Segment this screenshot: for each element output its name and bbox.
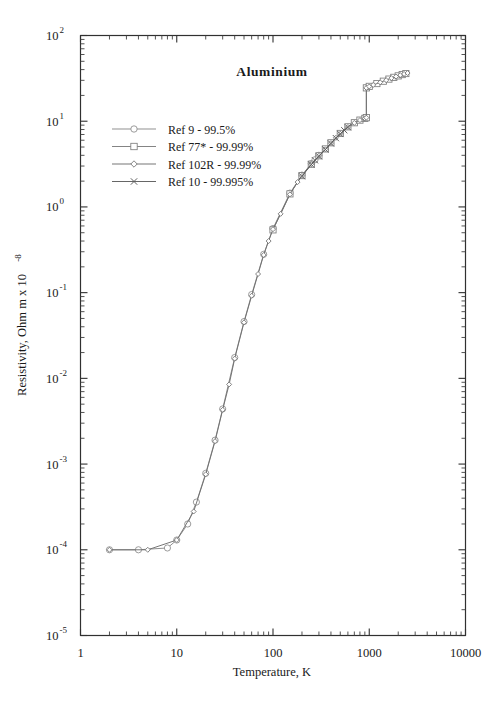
y-tick-label: 10-3	[46, 454, 67, 472]
data-series-layer	[106, 70, 410, 552]
y-tick-label: 102	[46, 25, 64, 43]
svg-text:10: 10	[46, 29, 59, 43]
svg-text:-1: -1	[60, 282, 68, 292]
x-tick-label: 100	[264, 646, 283, 660]
y-tick-label: 100	[46, 196, 65, 214]
x-axis-title: Temperature, K	[233, 665, 311, 679]
svg-text:-4: -4	[60, 539, 68, 549]
x-tick-label: 10	[171, 646, 184, 660]
y-tick-label: 10-1	[46, 282, 67, 300]
svg-text:10: 10	[46, 458, 59, 472]
legend-item[interactable]: Ref 10 - 99.995%	[112, 175, 253, 189]
svg-text:Resistivity, Ohm m x 10: Resistivity, Ohm m x 10	[15, 274, 29, 396]
x-tick-label: 10000	[450, 646, 481, 660]
y-axis-tick-labels: 10210110010-110-210-310-410-5	[46, 25, 67, 643]
y-axis-ticks	[81, 36, 466, 636]
chart-title: Aluminium	[236, 64, 308, 79]
y-tick-label: 101	[46, 111, 64, 129]
x-tick-label: 1000	[357, 646, 382, 660]
data-series	[107, 71, 410, 553]
y-axis-title: Resistivity, Ohm m x 10-8	[13, 254, 29, 396]
x-axis-tick-labels: 110100100010000	[77, 646, 481, 660]
legend-item[interactable]: Ref 9 - 99.5%	[112, 123, 235, 137]
chart-legend: Ref 9 - 99.5%Ref 77* - 99.99%Ref 102R - …	[112, 123, 261, 190]
svg-text:-5: -5	[60, 625, 68, 635]
svg-text:10: 10	[46, 543, 59, 557]
legend-item[interactable]: Ref 77* - 99.99%	[112, 140, 253, 154]
chart-canvas: 110100100010000 10210110010-110-210-310-…	[0, 0, 495, 706]
svg-text:-3: -3	[60, 454, 68, 464]
svg-text:10: 10	[46, 200, 59, 214]
svg-text:0: 0	[60, 196, 65, 206]
x-tick-label: 1	[77, 646, 83, 660]
y-tick-label: 10-2	[46, 368, 67, 386]
svg-text:10: 10	[46, 629, 59, 643]
svg-text:2: 2	[60, 25, 65, 35]
svg-text:-8: -8	[13, 254, 23, 262]
x-axis-ticks	[81, 36, 466, 636]
plot-frame	[81, 36, 466, 636]
y-tick-label: 10-4	[46, 539, 67, 557]
svg-text:1: 1	[60, 111, 65, 121]
chart-title-text: Aluminium	[236, 64, 308, 79]
legend-label: Ref 10 - 99.995%	[168, 175, 253, 189]
data-series	[270, 70, 409, 233]
svg-text:10: 10	[46, 115, 59, 129]
svg-text:10: 10	[46, 372, 59, 386]
legend-label: Ref 9 - 99.5%	[168, 123, 235, 137]
figure: 110100100010000 10210110010-110-210-310-…	[0, 0, 495, 706]
legend-label: Ref 102R - 99.99%	[168, 158, 261, 172]
legend-item[interactable]: Ref 102R - 99.99%	[112, 158, 261, 172]
svg-text:-2: -2	[60, 368, 68, 378]
legend-label: Ref 77* - 99.99%	[168, 140, 253, 154]
data-series	[106, 152, 322, 553]
svg-text:10: 10	[46, 286, 59, 300]
y-tick-label: 10-5	[46, 625, 67, 643]
